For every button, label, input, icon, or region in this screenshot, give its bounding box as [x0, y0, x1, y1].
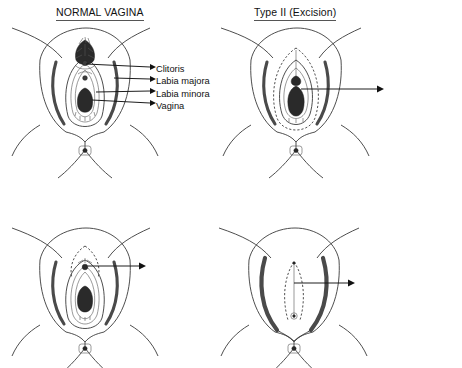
- panel-type-iii-infibulation: Type III (Infibulation) Narrowing of the…: [231, 184, 462, 368]
- panel-normal-vagina: NORMAL VAGINA: [0, 0, 231, 184]
- callout-label-clitoris: Clitoris: [156, 63, 210, 75]
- callout-label-list-normal-vagina: Clitoris Labia majora Labia minora Vagin…: [156, 63, 210, 113]
- illustration-type-iii: [231, 184, 462, 368]
- illustration-type-i: [0, 184, 231, 368]
- panel-type-i-clitoridectomy: Type I (Clitoridectomy) Partial or total…: [0, 184, 231, 368]
- illustration-type-ii: [231, 0, 462, 184]
- callout-label-labia-majora: Labia majora: [156, 75, 210, 87]
- callout-label-labia-minora: Labia minora: [156, 88, 210, 100]
- callout-label-vagina: Vagina: [156, 100, 210, 112]
- panel-type-ii-excision: Type II (Excision) Removal of clitoris a…: [231, 0, 462, 184]
